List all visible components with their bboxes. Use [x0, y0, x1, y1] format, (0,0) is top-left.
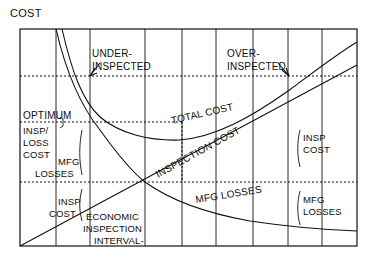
- insp-loss-cost-label-line3: COST: [23, 149, 50, 160]
- mfg-losses-left-label-line2: LOSSES: [35, 168, 74, 179]
- under-inspected-label-line1: UNDER-: [92, 48, 132, 59]
- insp-loss-cost-label-line2: LOSS: [23, 137, 49, 148]
- mfg-losses-left-bracket: [80, 130, 82, 175]
- over-inspected-label-line1: OVER-: [227, 48, 260, 59]
- insp-cost-right-label-line2: COST: [303, 144, 330, 155]
- mfg-losses-left-label-line1: MFG: [58, 156, 79, 167]
- inspection-cost-label: INSPECTION COST: [154, 124, 242, 180]
- under-inspected-label-line2: INSPECTED: [92, 61, 151, 72]
- insp-cost-left-label-line1: INSP: [58, 196, 81, 207]
- economic-interval-label-line2: INSPECTION: [83, 223, 142, 234]
- over-inspected-label-line2: INSPECTED: [227, 61, 286, 72]
- mfg-losses-right-label-line1: MFG: [303, 194, 324, 205]
- economic-interval-label-line1: ECONOMIC: [86, 211, 139, 222]
- insp-cost-right-bracket: [298, 130, 300, 167]
- optimum-label: OPTIMUM: [23, 110, 72, 121]
- total-cost-label: TOTAL COST: [170, 101, 234, 126]
- insp-cost-right-label-line1: INSP: [303, 132, 326, 143]
- total-cost-curve: [62, 29, 357, 140]
- insp-loss-cost-label-line1: INSP/: [23, 125, 49, 136]
- mfg-losses-curve-label: MFG LOSSES: [195, 184, 263, 205]
- mfg-losses-right-bracket: [298, 191, 300, 225]
- economic-interval-label-line3: INTERVAL-: [94, 235, 144, 246]
- chart-svg: UNDER- INSPECTED OVER- INSPECTED OPTIMUM…: [0, 0, 371, 262]
- cost-vs-inspection-interval-figure: COST: [0, 0, 371, 262]
- insp-cost-left-label-line2: COST: [49, 208, 76, 219]
- mfg-losses-right-label-line2: LOSSES: [303, 206, 342, 217]
